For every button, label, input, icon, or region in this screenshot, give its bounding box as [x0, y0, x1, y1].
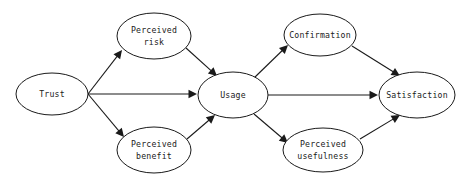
- node-label-line1: Perceived: [131, 25, 177, 35]
- edge-perceived_risk-to-usage: [186, 48, 217, 76]
- node-label-line2: risk: [144, 37, 165, 47]
- arrow-head: [113, 50, 122, 59]
- edge-line: [352, 46, 395, 73]
- node-label-line2: usefulness: [297, 151, 348, 161]
- node-ellipse[interactable]: [283, 128, 363, 172]
- node-confirmation[interactable]: Confirmation: [284, 14, 356, 56]
- edge-trust-to-perceived_benefit: [88, 94, 124, 137]
- nodes-layer: TrustPerceivedriskPerceivedbenefitUsageC…: [16, 13, 455, 173]
- node-usage[interactable]: Usage: [198, 72, 268, 118]
- edge-usage-to-perceived_usefulness: [254, 114, 288, 143]
- node-label-line2: benefit: [136, 151, 172, 161]
- node-trust[interactable]: Trust: [16, 73, 88, 115]
- edge-trust-to-usage: [88, 90, 197, 98]
- node-label-line1: Perceived: [131, 139, 177, 149]
- arrow-head: [115, 128, 124, 137]
- node-label: Trust: [39, 89, 65, 99]
- edge-perceived_benefit-to-usage: [187, 115, 215, 139]
- edge-line: [254, 49, 284, 78]
- node-ellipse[interactable]: [117, 13, 191, 59]
- node-perceived_usefulness[interactable]: Perceivedusefulness: [283, 128, 363, 172]
- node-label-line1: Perceived: [300, 139, 346, 149]
- edge-usage-to-confirmation: [254, 45, 288, 78]
- edge-line: [360, 118, 395, 139]
- edge-line: [88, 55, 118, 94]
- node-perceived_benefit[interactable]: Perceivedbenefit: [117, 127, 191, 173]
- arrow-head: [391, 115, 400, 123]
- node-ellipse[interactable]: [117, 127, 191, 173]
- node-perceived_risk[interactable]: Perceivedrisk: [117, 13, 191, 59]
- path-diagram: TrustPerceivedriskPerceivedbenefitUsageC…: [0, 0, 470, 183]
- edge-trust-to-perceived_risk: [88, 50, 122, 94]
- node-label: Satisfaction: [386, 90, 448, 100]
- edge-line: [187, 119, 210, 139]
- edge-usage-to-satisfaction: [268, 91, 378, 99]
- edge-confirmation-to-satisfaction: [352, 46, 400, 76]
- diagram-canvas: TrustPerceivedriskPerceivedbenefitUsageC…: [0, 0, 470, 183]
- node-label: Confirmation: [289, 30, 351, 40]
- arrow-head: [370, 91, 379, 99]
- node-satisfaction[interactable]: Satisfaction: [379, 72, 455, 118]
- edge-line: [186, 48, 212, 72]
- edge-line: [254, 114, 283, 139]
- edge-line: [88, 94, 120, 132]
- arrow-head: [189, 90, 198, 98]
- node-label: Usage: [220, 90, 246, 100]
- edge-perceived_usefulness-to-satisfaction: [360, 115, 400, 139]
